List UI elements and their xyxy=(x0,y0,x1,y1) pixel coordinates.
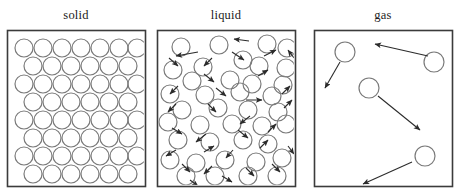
states-of-matter-figure: solid liquid gas xyxy=(0,0,460,196)
diagram-canvas xyxy=(0,0,460,196)
